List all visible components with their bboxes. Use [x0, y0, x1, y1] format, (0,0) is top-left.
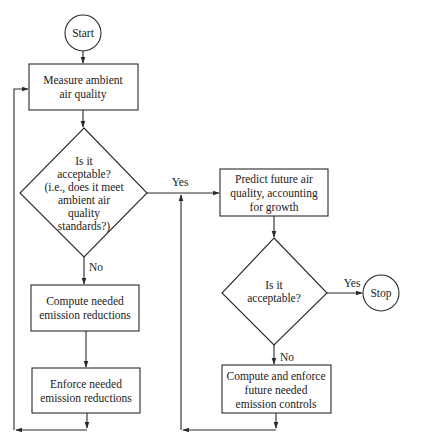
- predict-node: Predict future air quality, accounting f…: [220, 169, 328, 216]
- stop-label: Stop: [370, 287, 391, 300]
- start-label: Start: [72, 27, 95, 39]
- decision1-line-5: quality: [68, 207, 100, 220]
- measure-line-2: air quality: [60, 88, 107, 101]
- decision1-line-4: ambient air: [58, 194, 110, 206]
- decision1-yes-label: Yes: [172, 176, 189, 188]
- enforce-line-1: Enforce needed: [50, 378, 122, 390]
- decision2-yes-label: Yes: [344, 277, 361, 289]
- decision1-line-2: acceptable?: [57, 168, 111, 181]
- stop-node: Stop: [363, 275, 399, 311]
- edge-loop-left-up: [14, 89, 28, 430]
- predict-line-1: Predict future air: [235, 173, 313, 185]
- decision1-no-label: No: [89, 261, 103, 273]
- compute-line-2: emission reductions: [39, 309, 131, 321]
- measure-node: Measure ambient air quality: [29, 64, 138, 110]
- decision1-node: Is it acceptable? (i.e., does it meet am…: [20, 128, 147, 257]
- decision1-line-6: standards?): [58, 220, 111, 233]
- enforce-line-2: emission reductions: [40, 392, 132, 404]
- decision2-no-label: No: [280, 351, 294, 363]
- compute-enforce-node: Compute and enforce future needed emissi…: [222, 365, 331, 413]
- decision2-line-1: Is it: [265, 279, 283, 291]
- compute-enforce-line-2: future needed: [245, 384, 308, 396]
- compute-enforce-line-1: Compute and enforce: [227, 370, 326, 383]
- compute-node: Compute needed emission reductions: [31, 285, 139, 331]
- compute-enforce-line-3: emission controls: [236, 398, 317, 410]
- decision1-line-3: (i.e., does it meet: [44, 181, 124, 194]
- start-node: Start: [65, 15, 101, 51]
- decision1-line-1: Is it: [75, 155, 93, 167]
- enforce-node: Enforce needed emission reductions: [32, 368, 140, 413]
- measure-line-1: Measure ambient: [43, 74, 123, 86]
- decision2-node: Is it acceptable?: [222, 238, 327, 345]
- predict-line-2: quality, accounting: [230, 187, 318, 200]
- decision2-line-2: acceptable?: [247, 292, 301, 305]
- flowchart-canvas: Start Measure ambient air quality Is it …: [0, 0, 423, 446]
- compute-line-1: Compute needed: [46, 295, 124, 308]
- predict-line-3: for growth: [250, 201, 299, 214]
